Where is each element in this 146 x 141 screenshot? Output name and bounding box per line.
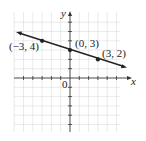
line-arrow-left-icon bbox=[16, 32, 22, 36]
point-neg3-4 bbox=[40, 39, 44, 43]
y-axis-label: y bbox=[60, 7, 66, 19]
point-label-3-2: (3, 2) bbox=[102, 47, 126, 60]
point-label-0-3: (0, 3) bbox=[75, 37, 99, 50]
line-arrow-right-icon bbox=[121, 64, 127, 68]
point-3-2 bbox=[96, 57, 100, 61]
x-axis-label: x bbox=[130, 75, 136, 87]
origin-label: 0 bbox=[62, 78, 68, 90]
y-axis-arrow-icon bbox=[68, 11, 72, 16]
point-0-3 bbox=[68, 48, 72, 52]
axes bbox=[14, 11, 132, 132]
grid bbox=[14, 12, 120, 132]
point-label-neg3-4: (−3, 4) bbox=[9, 40, 39, 53]
coordinate-plane: (−3, 4) (0, 3) (3, 2) x y 0 bbox=[0, 0, 146, 141]
